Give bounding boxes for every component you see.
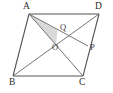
point-label-q: Q: [60, 23, 66, 32]
vertex-label-d: D: [95, 2, 102, 12]
point-label-o: O: [52, 43, 58, 52]
point-label-p: P: [90, 43, 95, 52]
segment-cevian-AP: [29, 14, 88, 46]
geometry-figure: A D B C Q O P: [0, 0, 113, 93]
vertex-label-a: A: [23, 2, 30, 12]
vertex-label-c: C: [79, 78, 85, 88]
vertex-label-b: B: [9, 78, 15, 88]
